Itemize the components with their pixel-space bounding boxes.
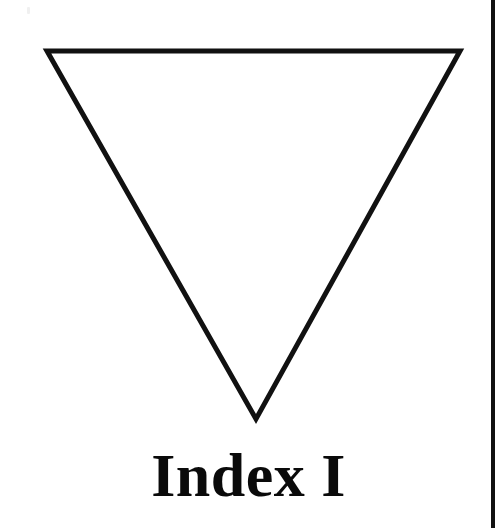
triangle-outline [47,51,460,419]
figure-caption: Index I [0,444,497,506]
scan-speck-artifact [27,7,30,14]
right-page-rule [491,0,495,528]
figure-page: Index I [0,0,497,528]
